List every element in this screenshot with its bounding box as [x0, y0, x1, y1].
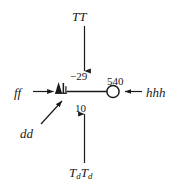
label-right-input: hhh — [146, 86, 166, 99]
value-node: 540 — [107, 76, 124, 87]
label-diagonal-dd: dd — [20, 127, 33, 140]
label-top-input: TT — [72, 10, 86, 23]
value-top: −29 — [70, 71, 87, 82]
label-bottom-input-t2: T — [81, 165, 88, 180]
summing-junction — [107, 85, 119, 97]
label-left-input: ff — [14, 86, 21, 99]
label-bottom-input-sub2: d — [88, 171, 92, 181]
label-bottom-input: TdTd — [69, 166, 92, 181]
valve-symbol — [55, 82, 67, 94]
arrow-diagonal-up — [41, 101, 62, 124]
value-bottom: 10 — [75, 103, 86, 114]
diagram-canvas: TT ff hhh TdTd dd −29 10 540 — [0, 0, 183, 188]
